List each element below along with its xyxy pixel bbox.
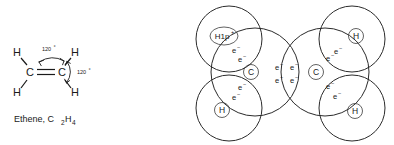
electron-charge-glyph: − [237,91,240,97]
structural-formula-caption: Ethene, C 2 H 4 [14,114,76,126]
electron-glyph: e [290,76,294,85]
electron-pair-top-right: e − e − [326,45,342,63]
electron-glyph: e [232,46,236,55]
chemistry-figure: C C H H H H 120 [0,0,394,145]
electron-charge-glyph: − [331,52,334,58]
electron-glyph: e [275,76,279,85]
electron-charge-glyph: − [280,61,283,67]
electron-symbol: e − [326,80,334,91]
angle-upper-value: 120 [42,46,51,52]
electron-symbol: e − [333,90,341,101]
carbon-left-nucleus-label: C [248,67,254,77]
electron-glyph: e [232,93,236,102]
hydrogen-bottom-left-nucleus-label: H [219,105,225,115]
electron-glyph: e [334,47,338,56]
electron-charge-glyph: − [339,45,342,51]
electron-charge-glyph: − [295,61,298,67]
electron-charge-glyph: − [338,90,341,96]
hydrogen-top-right-nucleus-label: H [353,31,359,41]
hydrogen-top-left-label: H [13,46,21,58]
hydrogen-top-left-nucleus-label: H1p [215,32,230,41]
electron-glyph: e [275,63,279,72]
electron-symbol: e − [326,52,334,63]
electron-symbol: e − [334,45,342,56]
electron-pair-bottom-right: e − e − [326,80,341,101]
electron-glyph: e [290,63,294,72]
hydrogen-top-right-label: H [71,46,79,58]
electron-glyph: e [238,55,242,64]
electron-pair-top-left: e − e − [232,44,246,64]
hydrogen-top-left-charge: + [231,29,234,35]
angle-label-upper: 120 ° [42,44,56,53]
electron-charge-glyph: − [237,44,240,50]
electron-charge-glyph: − [280,74,283,80]
structural-formula-group: C C H H H H 120 [13,44,91,127]
caption-hydrogen: H [65,114,72,124]
electron-symbol: e − [290,74,298,85]
hydrogen-bottom-right-nucleus: H [348,104,363,119]
shell-diagram-group: C C H1p + H H H e [196,6,385,141]
electron-pair-bottom-left: e − e − [232,81,246,102]
electron-symbol: e − [275,61,283,72]
electron-glyph: e [326,82,330,91]
carbon-left-nucleus: C [244,65,259,80]
caption-name: Ethene, C [14,114,55,124]
double-bond [37,70,55,75]
electron-symbol: e − [238,53,246,64]
electron-symbol: e − [232,91,240,102]
hydrogen-bottom-right-label: H [71,86,79,98]
electron-group-double-bond: e − e − e − e − [275,61,298,85]
electron-charge-glyph: − [295,74,298,80]
electron-charge-glyph: − [331,80,334,86]
carbon-right-nucleus-label: C [313,67,319,77]
electron-symbol: e − [290,61,298,72]
carbon-right-label: C [58,66,66,78]
electron-glyph: e [333,92,337,101]
electron-glyph: e [326,54,330,63]
hydrogen-bottom-left-nucleus: H [215,103,230,118]
hydrogen-top-left-nucleus: H1p + [210,27,238,45]
electron-charge-glyph: − [243,81,246,87]
hydrogen-bottom-right-nucleus-label: H [352,106,358,116]
angle-lower-degree: ° [89,67,91,73]
carbon-left-label: C [26,66,34,78]
carbon-right-nucleus: C [309,65,324,80]
angle-upper-degree: ° [54,44,56,50]
angle-label-lower: 120 ° [77,67,91,76]
angle-lower-value: 120 [77,69,86,75]
angle-arc-upper [39,58,64,66]
hydrogen-bottom-left-label: H [13,86,21,98]
caption-subscript-4: 4 [72,119,76,126]
electron-charge-glyph: − [243,53,246,59]
electron-symbol: e − [232,44,240,55]
